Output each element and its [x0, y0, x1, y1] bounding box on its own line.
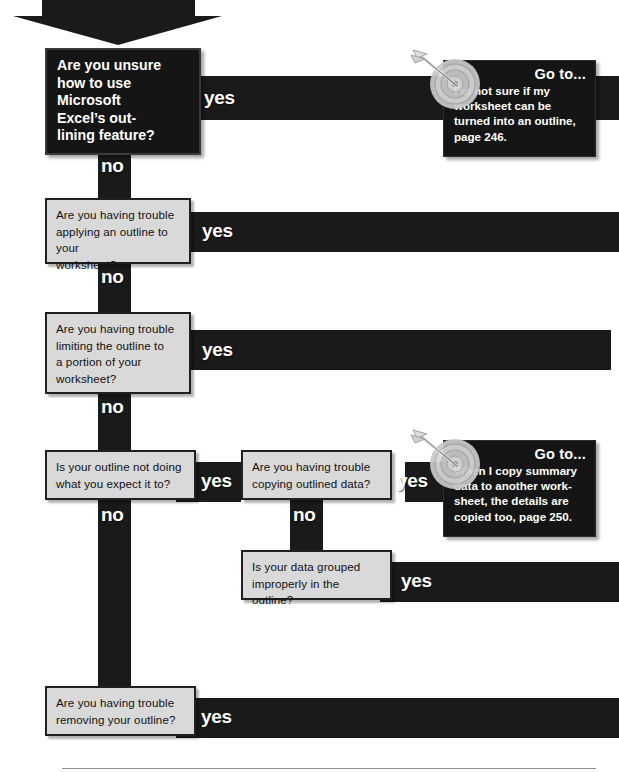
- no-label-q3: no: [101, 396, 124, 418]
- q2-line-2: applying an outline to your: [56, 224, 180, 257]
- q1-line-3: Microsoft: [57, 92, 189, 110]
- goto-1-line-4: page 246.: [454, 129, 586, 144]
- no-label-q1: no: [101, 155, 124, 177]
- decision-box-q2[interactable]: Are you having trouble applying an outli…: [45, 198, 191, 264]
- no-label-q5: no: [293, 504, 316, 526]
- q7-line-1: Are you having trouble: [56, 695, 185, 712]
- goto-1-line-2: worksheet can be: [454, 98, 586, 113]
- decision-box-q6[interactable]: Is your data grouped improperly in the o…: [241, 550, 392, 600]
- goto-2-line-3: sheet, the details are: [454, 493, 586, 508]
- yes-label-q6: yes: [401, 570, 432, 592]
- decision-box-q5[interactable]: Are you having trouble copying outlined …: [241, 450, 392, 500]
- decision-box-q3[interactable]: Are you having trouble limiting the outl…: [45, 312, 191, 394]
- q3-line-1: Are you having trouble: [56, 321, 180, 338]
- goto-1-line-1: I’m not sure if my: [454, 83, 586, 98]
- no-stem-q4: [98, 500, 131, 686]
- yes-label-q1: yes: [204, 87, 235, 109]
- q1-line-2: how to use: [57, 75, 189, 93]
- q6-line-2: improperly in the outline?: [252, 576, 381, 609]
- no-label-q2: no: [101, 266, 124, 288]
- decision-box-q7[interactable]: Are you having trouble removing your out…: [45, 686, 196, 736]
- q1-line-4: Excel’s out-: [57, 110, 189, 128]
- q1-line-5: lining feature?: [57, 127, 189, 145]
- entry-arrow: [0, 0, 240, 48]
- q4-line-1: Is your outline not doing: [56, 459, 185, 476]
- q5-line-1: Are you having trouble: [252, 459, 381, 476]
- q3-line-3: a portion of your: [56, 354, 180, 371]
- goto-2-line-2: data to another work-: [454, 478, 586, 493]
- no-label-q4: no: [101, 504, 124, 526]
- q1-line-1: Are you unsure: [57, 57, 189, 75]
- flowchart-canvas: Are you unsure how to use Microsoft Exce…: [0, 0, 619, 772]
- goto-2-body: When I copy summary data to another work…: [454, 463, 586, 524]
- q7-line-2: removing your outline?: [56, 712, 185, 729]
- yes-label-q7: yes: [201, 706, 232, 728]
- goto-2-line-1: When I copy summary: [454, 463, 586, 478]
- yes-label-q5: yes: [397, 470, 428, 492]
- yes-bar-q2: [190, 212, 619, 252]
- goto-2-line-4: copied too, page 250.: [454, 509, 586, 524]
- q5-line-2: copying outlined data?: [252, 476, 381, 493]
- yes-bar-q7: [176, 698, 619, 738]
- decision-box-q4[interactable]: Is your outline not doing what you expec…: [45, 450, 196, 500]
- yes-label-q3: yes: [202, 339, 233, 361]
- goto-1-title: Go to...: [534, 66, 586, 82]
- goto-2-title: Go to...: [534, 446, 586, 462]
- goto-1-line-3: turned into an outline,: [454, 113, 586, 128]
- yes-label-q2: yes: [202, 220, 233, 242]
- q4-line-2: what you expect it to?: [56, 476, 185, 493]
- page-bottom-rule: [62, 768, 596, 769]
- goto-callout-2[interactable]: Go to... When I copy summary data to ano…: [443, 440, 596, 537]
- q6-line-1: Is your data grouped: [252, 559, 381, 576]
- yes-label-q4: yes: [201, 470, 232, 492]
- decision-box-q1[interactable]: Are you unsure how to use Microsoft Exce…: [45, 48, 201, 155]
- yes-bar-q3: [190, 330, 611, 370]
- q2-line-1: Are you having trouble: [56, 207, 180, 224]
- goto-1-body: I’m not sure if my worksheet can be turn…: [454, 83, 586, 144]
- q3-line-4: worksheet?: [56, 371, 180, 388]
- goto-callout-1[interactable]: Go to... I’m not sure if my worksheet ca…: [443, 60, 596, 157]
- q3-line-2: limiting the outline to: [56, 338, 180, 355]
